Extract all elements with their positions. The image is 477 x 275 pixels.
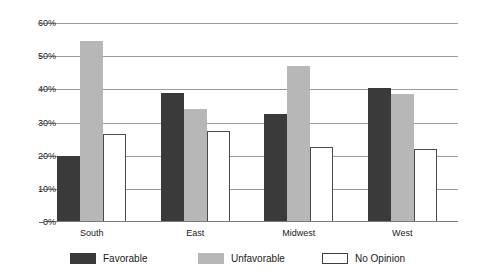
bar-south-favorable[interactable] (57, 156, 80, 222)
legend-swatch-icon (322, 253, 348, 264)
legend-label: No Opinion (355, 253, 405, 264)
y-axis-tick-label: 60% (16, 19, 56, 28)
bar-group-midwest (264, 23, 333, 222)
x-axis-label-east: East (150, 228, 240, 239)
y-axis-tick-mark (39, 123, 44, 124)
legend-label: Favorable (103, 253, 147, 264)
x-axis-label-south: South (47, 228, 137, 239)
y-axis-tick-label: 10% (16, 185, 56, 194)
bar-west-favorable[interactable] (368, 88, 391, 222)
x-axis-label-midwest: Midwest (254, 228, 344, 239)
bar-group-south (57, 23, 126, 222)
bar-midwest-favorable[interactable] (264, 114, 287, 222)
bar-south-no-opinion[interactable] (103, 134, 126, 222)
y-axis-tick-mark (39, 189, 44, 190)
legend-swatch-icon (70, 253, 96, 264)
bar-east-unfavorable[interactable] (184, 109, 207, 222)
y-axis-tick-mark (39, 23, 44, 24)
chart-legend: FavorableUnfavorableNo Opinion (0, 250, 477, 272)
y-axis-tick-label: 20% (16, 152, 56, 161)
y-axis-tick-label: 0% (16, 218, 56, 227)
y-axis-tick-mark (39, 222, 44, 223)
y-axis-tick-mark (39, 56, 44, 57)
bar-midwest-unfavorable[interactable] (287, 66, 310, 222)
bar-west-no-opinion[interactable] (414, 149, 437, 222)
y-axis-tick-label: 40% (16, 85, 56, 94)
y-axis-tick-mark (39, 156, 44, 157)
legend-swatch-icon (198, 253, 224, 264)
legend-item-no-opinion[interactable]: No Opinion (322, 250, 405, 266)
x-axis-line (44, 221, 458, 222)
y-axis-tick-label: 50% (16, 52, 56, 61)
x-axis-label-west: West (357, 228, 447, 239)
legend-item-favorable[interactable]: Favorable (70, 250, 147, 266)
legend-item-unfavorable[interactable]: Unfavorable (198, 250, 285, 266)
bar-south-unfavorable[interactable] (80, 41, 103, 222)
bar-chart: SouthEastMidwestWest FavorableUnfavorabl… (0, 0, 477, 275)
y-axis-tick-label: 30% (16, 119, 56, 128)
legend-label: Unfavorable (231, 253, 285, 264)
bar-group-west (368, 23, 437, 222)
bar-midwest-no-opinion[interactable] (310, 147, 333, 222)
plot-area (44, 23, 458, 222)
bar-east-favorable[interactable] (161, 93, 184, 222)
y-axis-tick-mark (39, 89, 44, 90)
bar-group-east (161, 23, 230, 222)
bar-east-no-opinion[interactable] (207, 131, 230, 222)
bar-west-unfavorable[interactable] (391, 94, 414, 222)
